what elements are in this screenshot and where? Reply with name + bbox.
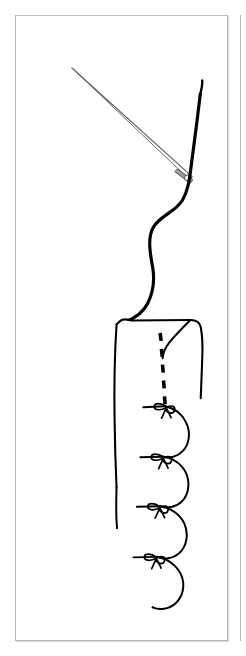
sewing-needle-icon	[72, 68, 193, 183]
figure-caption	[18, 646, 218, 656]
page-root: Needle and thread gathering a fabric tub…	[0, 0, 246, 656]
figure-illustration: Needle and thread gathering a fabric tub…	[16, 16, 227, 640]
adjacent-panel-edge	[240, 15, 246, 641]
stuffed-segments-left-outline	[116, 487, 117, 528]
thread-tail-tip	[200, 80, 202, 94]
figure-panel: Needle and thread gathering a fabric tub…	[15, 15, 228, 641]
thread-path	[126, 94, 200, 321]
illustration-ink	[72, 68, 202, 609]
segment-neck-lines	[133, 406, 165, 557]
tie-knots-group	[144, 404, 174, 569]
